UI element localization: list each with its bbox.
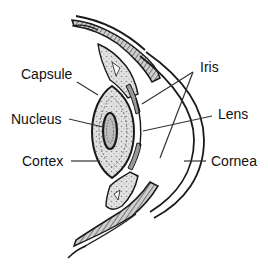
label-nucleus: Nucleus xyxy=(11,111,62,127)
capsule-leader xyxy=(77,82,98,95)
label-iris: Iris xyxy=(200,59,219,75)
iris-leader-lower xyxy=(160,72,193,158)
eye-illustration xyxy=(0,0,268,273)
label-cortex: Cortex xyxy=(22,153,63,169)
lens-nucleus xyxy=(103,113,117,149)
label-capsule: Capsule xyxy=(21,66,72,82)
label-cornea: Cornea xyxy=(211,153,257,169)
eye-lens-diagram: Capsule Nucleus Cortex Iris Lens Cornea xyxy=(0,0,268,273)
label-lens: Lens xyxy=(218,106,248,122)
